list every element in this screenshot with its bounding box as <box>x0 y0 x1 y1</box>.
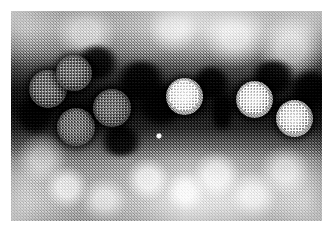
film-grain-layer-2 <box>11 11 322 221</box>
micrograph-plate <box>11 11 322 221</box>
figure-alt-text: Negative-stain transmission electron mic… <box>0 0 1 1</box>
electron-micrograph-figure: Negative-stain transmission electron mic… <box>0 0 331 236</box>
